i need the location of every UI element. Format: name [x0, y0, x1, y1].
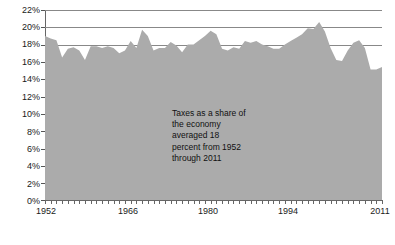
- y-axis-tick-label: 16%: [0, 58, 40, 67]
- x-axis-tick-mark: [273, 201, 274, 204]
- x-axis-tick-mark: [302, 201, 303, 204]
- y-axis-tick-label: 4%: [0, 162, 40, 171]
- x-axis-tick-mark: [308, 201, 309, 204]
- y-axis-tick-label: 18%: [0, 40, 40, 49]
- x-axis-tick-mark: [79, 201, 80, 204]
- plot-area: [45, 10, 382, 200]
- x-axis-tick-mark: [182, 201, 183, 204]
- x-axis-tick-mark: [114, 201, 115, 204]
- x-axis-tick-mark: [285, 201, 286, 204]
- x-axis-tick-mark: [239, 201, 240, 204]
- x-axis-tick-label: 1966: [111, 207, 145, 216]
- x-axis-tick-mark: [296, 201, 297, 204]
- x-axis-tick-mark: [382, 201, 383, 204]
- x-axis-tick-mark: [325, 201, 326, 204]
- x-axis-tick-mark: [45, 201, 46, 204]
- x-axis-tick-mark: [176, 201, 177, 204]
- x-axis-tick-mark: [279, 201, 280, 204]
- chart-container: 22% 20% 18% 16% 14% 12% 10% 8% 6% 4% 2% …: [0, 0, 395, 245]
- x-axis-tick-mark: [119, 201, 120, 204]
- y-axis-tick-label: 22%: [0, 6, 40, 15]
- x-axis-tick-mark: [194, 201, 195, 204]
- x-axis-tick-mark: [376, 201, 377, 204]
- x-axis-tick-mark: [342, 201, 343, 204]
- area-series: [45, 10, 382, 200]
- x-axis-tick-mark: [245, 201, 246, 204]
- x-axis-tick-mark: [353, 201, 354, 204]
- chart-annotation: Taxes as a share of the economy averaged…: [172, 108, 282, 164]
- x-axis-tick-mark: [62, 201, 63, 204]
- y-axis-tick-label: 2%: [0, 180, 40, 189]
- x-axis-tick-mark: [148, 201, 149, 204]
- y-axis-tick-label: 14%: [0, 75, 40, 84]
- x-axis-tick-mark: [251, 201, 252, 204]
- x-axis-tick-mark: [336, 201, 337, 204]
- x-axis-tick-mark: [171, 201, 172, 204]
- x-axis-tick-label: 1994: [271, 207, 305, 216]
- x-axis-tick-mark: [125, 201, 126, 204]
- x-axis-tick-mark: [205, 201, 206, 204]
- x-axis-tick-mark: [165, 201, 166, 204]
- x-axis-tick-mark: [222, 201, 223, 204]
- x-axis-tick-mark: [211, 201, 212, 204]
- x-axis-tick-mark: [188, 201, 189, 204]
- x-axis-tick-mark: [91, 201, 92, 204]
- x-axis-tick-label: 2011: [363, 207, 395, 216]
- x-axis-tick-mark: [199, 201, 200, 204]
- x-axis-tick-mark: [131, 201, 132, 204]
- x-axis-tick-mark: [371, 201, 372, 204]
- x-axis-tick-mark: [216, 201, 217, 204]
- x-axis-tick-mark: [51, 201, 52, 204]
- x-axis-tick-mark: [56, 201, 57, 204]
- x-axis-tick-label: 1952: [29, 207, 63, 216]
- x-axis-tick-mark: [233, 201, 234, 204]
- x-axis-tick-mark: [348, 201, 349, 204]
- x-axis-tick-mark: [68, 201, 69, 204]
- y-axis-tick-label: 12%: [0, 93, 40, 102]
- x-axis-tick-mark: [154, 201, 155, 204]
- x-axis-tick-mark: [85, 201, 86, 204]
- x-axis-tick-mark: [108, 201, 109, 204]
- x-axis-tick-mark: [313, 201, 314, 204]
- x-axis-tick-mark: [291, 201, 292, 204]
- x-axis-tick-mark: [136, 201, 137, 204]
- y-axis-tick-label: 20%: [0, 23, 40, 32]
- y-axis-tick-label: 0%: [0, 197, 40, 206]
- x-axis-tick-mark: [74, 201, 75, 204]
- x-axis-tick-mark: [331, 201, 332, 204]
- y-axis-tick-label: 6%: [0, 145, 40, 154]
- x-axis-tick-mark: [319, 201, 320, 204]
- x-axis-tick-mark: [96, 201, 97, 204]
- x-axis-tick-label: 1980: [191, 207, 225, 216]
- x-axis-tick-mark: [159, 201, 160, 204]
- x-axis-tick-mark: [228, 201, 229, 204]
- x-axis-tick-mark: [142, 201, 143, 204]
- x-axis-tick-mark: [359, 201, 360, 204]
- y-axis-tick-label: 8%: [0, 128, 40, 137]
- x-axis-tick-mark: [256, 201, 257, 204]
- gridline-22-overlay: [45, 10, 382, 11]
- x-axis-tick-mark: [262, 201, 263, 204]
- x-axis-tick-mark: [102, 201, 103, 204]
- x-axis-tick-mark: [365, 201, 366, 204]
- x-axis-tick-mark: [268, 201, 269, 204]
- y-axis-tick-label: 10%: [0, 110, 40, 119]
